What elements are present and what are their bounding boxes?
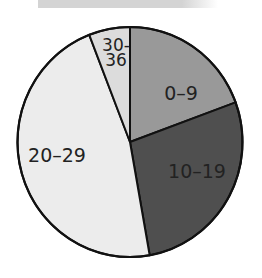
slice-label-10-19: 10–19	[168, 160, 226, 182]
slice-label-0-9: 0–9	[164, 82, 198, 104]
slice-label-30-36-line2: 36	[105, 50, 127, 70]
pie-chart: 0–9 10–19 20–29 30- 36	[0, 0, 262, 278]
slice-label-20-29: 20–29	[28, 144, 86, 166]
pie-slices	[18, 27, 243, 257]
